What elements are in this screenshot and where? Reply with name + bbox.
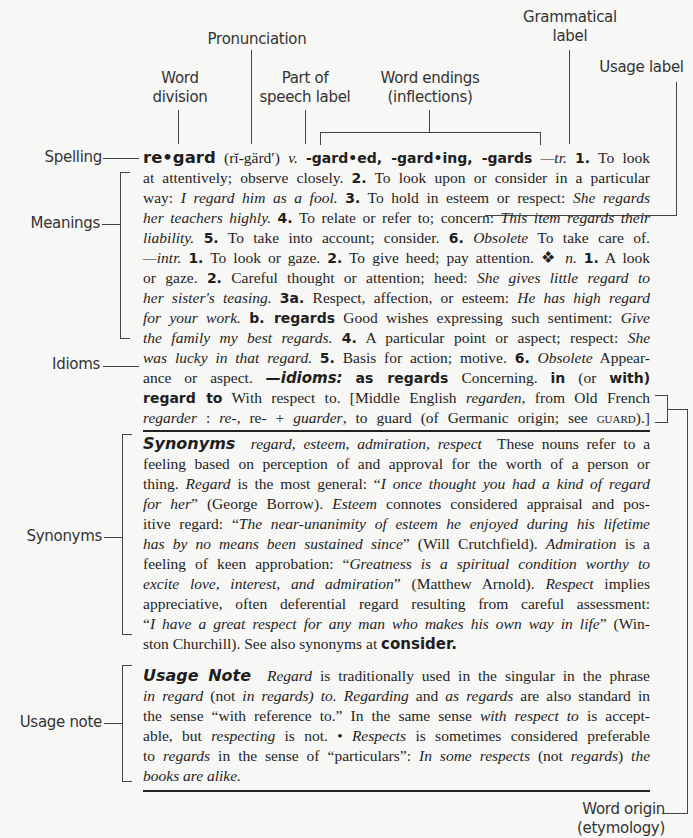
text: Careful thought or attention; heed: [222, 269, 477, 286]
etymology-bracket-bottom [655, 422, 667, 423]
entry-line-etymology: regarder : re-, re- + guarder, to guard … [143, 408, 650, 428]
callout-text: speech label [260, 88, 351, 106]
text: to [143, 747, 163, 764]
text [577, 249, 584, 266]
callout-usage-label: Usage label [590, 58, 693, 77]
text: To hold in esteem or respect: [360, 189, 573, 206]
quotation: has by no means been sustained since [143, 535, 403, 552]
synonyms-bracket-top [122, 434, 132, 435]
text: A look [599, 249, 650, 266]
text: is the most general: “ [231, 475, 381, 492]
term: respecting [211, 727, 275, 744]
sense-number: 5. [204, 230, 219, 246]
text: is traditionally used in the singular in… [312, 667, 650, 684]
text: , to guard (of Germanic origin; see [343, 409, 597, 426]
synonyms-bracket-vertical [122, 434, 123, 634]
usage-note-bracket-top [122, 665, 132, 666]
callout-text: Meanings [31, 214, 100, 232]
callout-text: Word endings [381, 69, 480, 87]
synonym-words: regard, esteem, admiration, respect [251, 435, 482, 452]
usage-note-bracket-bottom [122, 781, 132, 782]
text: “ [143, 615, 150, 632]
entry-line: liability. 5. To take into account; cons… [143, 228, 650, 248]
text: To take into account; consider. [219, 229, 449, 246]
quotation: excite love, interest, and admiration [143, 575, 394, 592]
entry-line: her sister's teasing. 3a. Respect, affec… [143, 288, 650, 308]
example: Give [621, 309, 650, 326]
etymology-long-top [667, 409, 687, 410]
text [464, 229, 473, 246]
term: Esteem [332, 495, 377, 512]
word-endings-bar-line [320, 132, 541, 133]
term: Respects [352, 727, 406, 744]
usage-note-line: books are alike. [143, 766, 650, 786]
text: Good wishes expressing such sentiment: [335, 309, 621, 326]
synonyms-connector [104, 537, 122, 538]
callout-word-division: Word division [140, 69, 220, 107]
example: She gives little regard to [477, 269, 650, 286]
callout-text: Part of [282, 69, 329, 87]
text [312, 349, 320, 366]
text: ) [618, 747, 631, 764]
synonyms-paragraph: Synonyms regard, esteem, admiration, res… [143, 434, 650, 654]
synonyms-line: itive regard: “The near-unanimity of est… [143, 514, 650, 534]
text: in the sense of “particulars”: [210, 747, 419, 764]
synonyms-heading: Synonyms [143, 434, 235, 453]
usage-note-line: in regard (not in regards) to. Regarding… [143, 686, 650, 706]
text: Basis for action; motive. [335, 349, 515, 366]
example: I regard him as a fool. [181, 189, 338, 206]
callout-text: Word origin [582, 800, 665, 818]
etymology-long-bottom [662, 813, 688, 814]
sense-number: 1. [575, 150, 590, 166]
callout-grammatical-label: Grammatical label [520, 8, 620, 46]
text: These nouns refer to a [497, 435, 650, 452]
sense-number: 6. [449, 230, 464, 246]
text: or gaze. [143, 269, 207, 286]
quotation: Greatness is a spiritual condition worth… [349, 555, 650, 572]
callout-text: Pronunciation [208, 30, 307, 48]
entry-line: for your work. b. regards Good wishes ex… [143, 308, 650, 328]
sense-number: 6. [515, 350, 530, 366]
part-of-speech: n. [565, 249, 577, 266]
synonyms-line: thing. Regard is the most general: “I on… [143, 474, 650, 494]
entry-line: regard to With respect to. [Middle Engli… [143, 388, 650, 408]
usage-note-paragraph: Usage Note Regard is traditionally used … [143, 666, 650, 786]
part-of-speech-line [305, 110, 306, 144]
example: for your work. [143, 309, 241, 326]
example: her sister's teasing. [143, 289, 272, 306]
entry-line: was lucky in that regard. 5. Basis for a… [143, 348, 650, 368]
synonyms-line: appreciative, often deferential regard r… [143, 594, 650, 614]
callout-word-endings: Word endings (inflections) [370, 69, 490, 107]
text [530, 349, 538, 366]
text: Concerning. [448, 369, 550, 386]
callout-synonyms: Synonyms [10, 527, 102, 546]
text: To look or gaze. [203, 249, 327, 266]
usage-label: Obsolete [473, 229, 528, 246]
text: (not [203, 687, 242, 704]
meanings-bracket-vertical [120, 172, 121, 338]
quotation: The near-unanimity of esteem he enjoyed … [239, 515, 650, 532]
word-endings-stem-line [429, 110, 430, 132]
term: in regard [143, 687, 203, 704]
grammatical-label-line [569, 50, 570, 144]
text: is accept- [579, 707, 650, 724]
usage-note-first-line: Usage Note Regard is traditionally used … [143, 666, 650, 686]
entry-line: —intr. 1. To look or gaze. 2. To give he… [143, 248, 650, 268]
synonyms-line: excite love, interest, and admiration” (… [143, 574, 650, 594]
quotation: I have a great respect for any man who m… [150, 615, 600, 632]
text [194, 229, 203, 246]
entry-line: at attentively; observe closely. 2. To l… [143, 168, 650, 188]
synonyms-line: feeling of keen approbation: “Greatness … [143, 554, 650, 574]
text: To relate or refer to; concern: [293, 209, 501, 226]
text: ston Churchill). See also synonyms at [143, 635, 381, 652]
spelling-line [103, 158, 139, 159]
pronunciation-line [251, 50, 252, 144]
callout-spelling: Spelling [32, 148, 102, 167]
text: is not. • [275, 727, 352, 744]
text: ance or aspect. [143, 369, 266, 386]
sense-number: 1. [584, 250, 599, 266]
callout-usage-note: Usage note [10, 713, 102, 732]
idioms-label: —idioms: [266, 369, 343, 387]
sense-number: 4. [278, 210, 293, 226]
callout-text: Idioms [52, 355, 100, 373]
